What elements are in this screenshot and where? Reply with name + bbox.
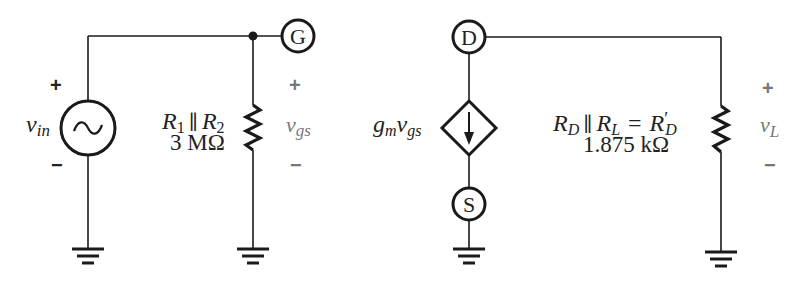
sine-wave-icon: [74, 122, 102, 133]
dependent-current-source: [442, 101, 496, 155]
vgs-label: vgs: [286, 112, 311, 140]
r1-r2-value: 3 MΩ: [170, 130, 225, 155]
vl-label: vL: [760, 112, 779, 141]
vgs-minus: −: [290, 154, 302, 176]
ground-icon: [705, 252, 737, 266]
arrow-down-icon: [464, 132, 474, 145]
vin-minus: −: [51, 154, 63, 176]
vl-minus: −: [764, 154, 776, 176]
rd-rl-value: 1.875 kΩ: [583, 132, 669, 157]
gm-vgs-label: gmvgs: [373, 111, 421, 140]
circuit-diagram: + − vin R1∥R2 3 MΩ G + − vgs D: [0, 0, 805, 291]
vin-label: vin: [26, 111, 50, 140]
vgs-plus: +: [289, 74, 301, 96]
vin-plus: +: [50, 74, 62, 96]
svg-text:S: S: [463, 192, 475, 217]
ground-icon: [453, 249, 485, 263]
resistor-rd-rl-icon: [714, 106, 728, 152]
ac-voltage-source: [61, 101, 115, 155]
svg-text:G: G: [290, 24, 306, 49]
gate-terminal: G: [282, 20, 314, 52]
svg-text:D: D: [461, 25, 477, 50]
drain-terminal: D: [453, 21, 485, 53]
source-terminal: S: [453, 188, 485, 220]
ground-icon: [72, 249, 104, 263]
vl-plus: +: [762, 77, 774, 99]
input-circuit: + − vin R1∥R2 3 MΩ G + − vgs: [26, 20, 314, 263]
output-circuit: D gmvgs S RD∥RL=R′: [373, 21, 779, 266]
ground-icon: [237, 249, 269, 263]
resistor-r1-r2-icon: [246, 105, 260, 150]
